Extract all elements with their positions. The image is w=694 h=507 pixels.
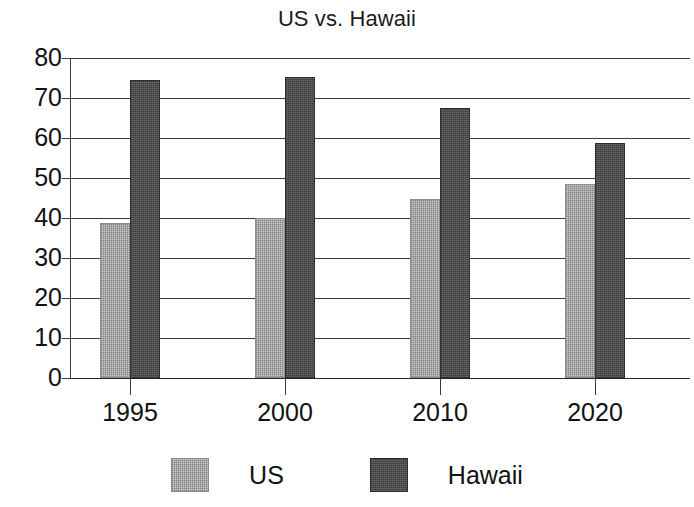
y-axis-tick-label: 70 (4, 85, 62, 110)
y-axis-tick-labels: 80706050403020100 (0, 0, 62, 507)
bar-chart-figure: US vs. Hawaii 80706050403020100 19952000… (0, 0, 694, 507)
y-axis-tick-label: 30 (4, 245, 62, 270)
y-axis-tick-mark (62, 178, 70, 179)
y-axis-tick-mark (62, 98, 70, 99)
y-axis-tick-mark (62, 58, 70, 59)
x-axis-tick-mark (285, 379, 286, 395)
bar-hawaii-2020 (595, 143, 625, 378)
y-axis-tick-label: 40 (4, 205, 62, 230)
y-axis-tick-label: 10 (4, 325, 62, 350)
y-axis-tick-label: 60 (4, 125, 62, 150)
x-axis-tick-mark (595, 379, 596, 395)
chart-title: US vs. Hawaii (0, 6, 694, 32)
bar-us-2020 (565, 184, 595, 378)
legend-swatch-hawaii (370, 458, 408, 492)
legend-entry-us: US (171, 458, 284, 492)
x-axis-tick-label-2000: 2000 (225, 398, 345, 426)
legend-swatch-us (171, 458, 209, 492)
clipped-title-line (0, 0, 694, 2)
y-axis-tick-mark (62, 258, 70, 259)
chart-legend: USHawaii (0, 452, 694, 498)
x-axis-tick-label-2010: 2010 (380, 398, 500, 426)
legend-label-us: US (249, 463, 284, 488)
y-axis-tick-mark (62, 298, 70, 299)
legend-entry-hawaii: Hawaii (370, 458, 523, 492)
gridline (70, 138, 690, 139)
gridline (70, 98, 690, 99)
legend-label-hawaii: Hawaii (448, 463, 523, 488)
x-axis-tick-label-2020: 2020 (535, 398, 655, 426)
x-axis-tick-mark (130, 379, 131, 395)
y-axis-tick-mark (62, 138, 70, 139)
y-axis-tick-mark (62, 378, 70, 379)
bar-hawaii-2010 (440, 108, 470, 378)
x-axis-tick-mark (440, 379, 441, 395)
bar-us-1995 (100, 223, 130, 378)
y-axis-tick-label: 80 (4, 45, 62, 70)
bar-hawaii-1995 (130, 80, 160, 378)
bar-hawaii-2000 (285, 77, 315, 378)
x-axis-tick-label-1995: 1995 (70, 398, 190, 426)
gridline (70, 58, 690, 59)
x-axis: 1995200020102020 (70, 378, 690, 438)
plot-area (70, 58, 690, 378)
y-axis-tick-label: 20 (4, 285, 62, 310)
y-axis-tick-label: 0 (4, 365, 62, 390)
y-axis-tick-mark (62, 218, 70, 219)
y-axis-tick-mark (62, 338, 70, 339)
bar-us-2000 (255, 218, 285, 378)
bar-us-2010 (410, 199, 440, 378)
y-axis-tick-label: 50 (4, 165, 62, 190)
